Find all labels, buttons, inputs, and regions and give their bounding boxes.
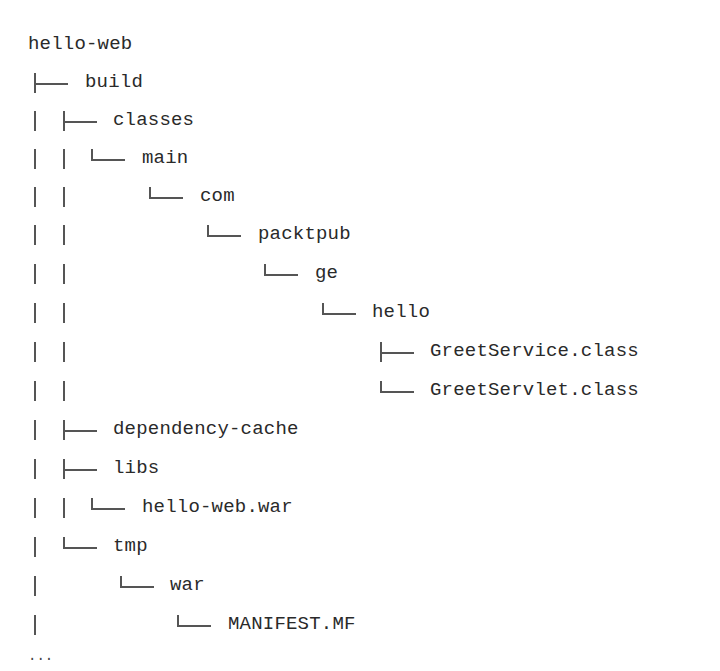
vertical-line-icon	[34, 381, 36, 401]
file-label: GreetService.class	[430, 339, 639, 363]
file-label: hello-web.war	[142, 495, 293, 519]
tree-node-hello: hello	[0, 294, 720, 332]
folder-label: packtpub	[258, 222, 351, 246]
vertical-line-icon	[63, 264, 65, 284]
vertical-line-icon	[63, 149, 65, 169]
vertical-line-icon	[34, 615, 36, 635]
folder-label: libs	[113, 456, 159, 480]
folder-label: com	[200, 184, 235, 208]
vertical-line-icon	[34, 459, 36, 479]
tree-node-main: main	[0, 140, 720, 178]
tree-node-greetservice: GreetService.class	[0, 333, 720, 371]
vertical-line-icon	[63, 225, 65, 245]
tree-node-libs: libs	[0, 450, 720, 488]
vertical-line-icon	[34, 111, 36, 131]
vertical-line-icon	[34, 342, 36, 362]
folder-label: dependency-cache	[113, 417, 299, 441]
ellipsis: ...	[28, 648, 53, 664]
tree-node-war: war	[0, 567, 720, 605]
vertical-line-icon	[63, 381, 65, 401]
folder-label: classes	[113, 108, 194, 132]
tree-node-ge: ge	[0, 255, 720, 293]
vertical-line-icon	[34, 187, 36, 207]
file-label: GreetServlet.class	[430, 378, 639, 402]
tree-node-classes: classes	[0, 102, 720, 140]
tree-node-dependency-cache: dependency-cache	[0, 411, 720, 449]
tree-node-greetservlet: GreetServlet.class	[0, 372, 720, 410]
vertical-line-icon	[34, 576, 36, 596]
tree-node-hello-web-war: hello-web.war	[0, 489, 720, 527]
vertical-line-icon	[63, 342, 65, 362]
folder-label: tmp	[113, 534, 148, 558]
folder-label: main	[142, 146, 188, 170]
vertical-line-icon	[63, 187, 65, 207]
folder-label: hello	[372, 300, 430, 324]
folder-label: ge	[315, 261, 338, 285]
vertical-line-icon	[34, 264, 36, 284]
folder-label: war	[170, 573, 205, 597]
tree-node-manifest: MANIFEST.MF	[0, 606, 720, 644]
vertical-line-icon	[34, 149, 36, 169]
file-label: MANIFEST.MF	[228, 612, 356, 636]
tree-node-build: build	[0, 64, 720, 102]
vertical-line-icon	[34, 537, 36, 557]
tree-root: hello-web	[0, 26, 720, 64]
vertical-line-icon	[34, 420, 36, 440]
tree-node-packtpub: packtpub	[0, 216, 720, 254]
vertical-line-icon	[63, 303, 65, 323]
tree-node-tmp: tmp	[0, 528, 720, 566]
tree-node-com: com	[0, 178, 720, 216]
folder-label: build	[85, 70, 143, 94]
folder-label: hello-web	[28, 32, 132, 56]
vertical-line-icon	[34, 303, 36, 323]
vertical-line-icon	[34, 498, 36, 518]
vertical-line-icon	[34, 225, 36, 245]
vertical-line-icon	[63, 498, 65, 518]
